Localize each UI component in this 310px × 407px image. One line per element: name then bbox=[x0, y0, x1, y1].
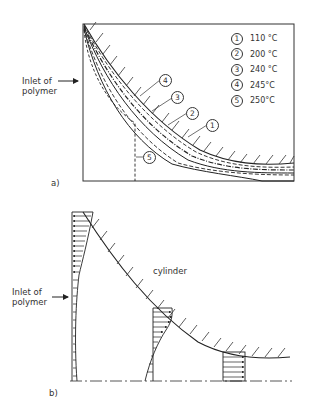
inlet-label-b-line2: polymer bbox=[12, 297, 47, 307]
cylinder-wall-b bbox=[83, 212, 290, 358]
legend-number-3: 3 bbox=[231, 64, 243, 76]
panel-label-a: a) bbox=[51, 178, 60, 188]
legend-label-1: 110 °C bbox=[250, 34, 277, 43]
legend-label-2: 200 °C bbox=[250, 50, 277, 59]
legend-item-2: 2 200 °C bbox=[231, 47, 277, 63]
figure-b bbox=[52, 212, 292, 381]
callout-2: 2 bbox=[186, 107, 199, 120]
legend-item-4: 4 245°C bbox=[231, 78, 277, 94]
callout-1: 1 bbox=[206, 119, 219, 132]
callout-3: 3 bbox=[171, 91, 184, 104]
legend-label-3: 240 °C bbox=[250, 65, 277, 74]
legend: 1 110 °C 2 200 °C 3 240 °C 4 245°C 5 250… bbox=[231, 31, 277, 109]
legend-number-1: 1 bbox=[231, 33, 243, 45]
cylinder-label: cylinder bbox=[153, 266, 187, 276]
legend-item-5: 5 250°C bbox=[231, 93, 277, 109]
callout-5: 5 bbox=[143, 151, 156, 164]
legend-number-2: 2 bbox=[231, 48, 243, 60]
legend-label-4: 245°C bbox=[250, 81, 275, 90]
legend-number-4: 4 bbox=[231, 79, 243, 91]
velocity-profile-2 bbox=[145, 308, 172, 381]
callout-4: 4 bbox=[159, 74, 172, 87]
inlet-label-a-line1: Inlet of bbox=[22, 76, 57, 86]
legend-number-5: 5 bbox=[231, 95, 243, 107]
panel-label-b: b) bbox=[49, 388, 58, 398]
legend-item-3: 3 240 °C bbox=[231, 62, 277, 78]
inlet-label-b-line1: Inlet of bbox=[12, 287, 47, 297]
inlet-label-a-line2: polymer bbox=[22, 86, 57, 96]
velocity-profile-1 bbox=[72, 212, 93, 381]
inlet-label-b: Inlet of polymer bbox=[12, 287, 47, 307]
legend-label-5: 250°C bbox=[250, 96, 275, 105]
inlet-label-a: Inlet of polymer bbox=[22, 76, 57, 96]
cylinder-hatching-b bbox=[92, 219, 285, 357]
legend-item-1: 1 110 °C bbox=[231, 31, 277, 47]
